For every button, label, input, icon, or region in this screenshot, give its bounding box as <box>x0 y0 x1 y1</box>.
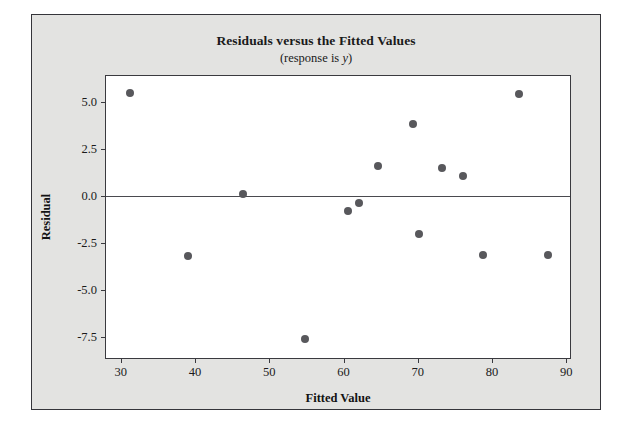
y-tick-label: 5.0 <box>81 95 97 110</box>
chart-title: Residuals versus the Fitted Values <box>32 33 600 49</box>
y-tick-mark <box>101 243 106 244</box>
chart-subtitle-prefix: (response is <box>280 51 343 65</box>
y-axis-title: Residual <box>39 194 54 241</box>
data-point <box>409 120 417 128</box>
x-tick-mark <box>195 358 196 363</box>
x-tick-label: 50 <box>263 365 276 380</box>
data-point <box>239 190 247 198</box>
x-tick-label: 30 <box>115 365 128 380</box>
plot-area: 30405060708090 5.02.50.0-2.5-5.0-7.5 <box>105 75 571 359</box>
data-point <box>301 335 309 343</box>
y-tick-label: -7.5 <box>77 330 97 345</box>
y-tick-mark <box>101 337 106 338</box>
x-tick-mark <box>121 358 122 363</box>
data-point <box>459 172 467 180</box>
data-point <box>515 90 523 98</box>
data-point <box>544 251 552 259</box>
x-axis-title: Fitted Value <box>105 391 571 406</box>
x-tick-mark <box>566 358 567 363</box>
x-tick-label: 90 <box>560 365 573 380</box>
x-tick-label: 40 <box>189 365 202 380</box>
chart-subtitle-suffix: ) <box>348 51 352 65</box>
y-tick-mark <box>101 290 106 291</box>
y-tick-mark <box>101 196 106 197</box>
y-tick-mark <box>101 149 106 150</box>
data-point <box>479 251 487 259</box>
data-point <box>355 199 363 207</box>
x-tick-mark <box>269 358 270 363</box>
data-point <box>438 164 446 172</box>
data-point <box>184 252 192 260</box>
zero-reference-line <box>106 196 570 197</box>
data-point <box>126 89 134 97</box>
chart-subtitle: (response is y) <box>32 51 600 66</box>
x-tick-label: 70 <box>412 365 425 380</box>
x-tick-mark <box>492 358 493 363</box>
x-tick-label: 80 <box>486 365 499 380</box>
y-tick-label: -2.5 <box>77 236 97 251</box>
figure-panel: Residuals versus the Fitted Values (resp… <box>31 14 601 410</box>
data-point <box>415 230 423 238</box>
title-block: Residuals versus the Fitted Values (resp… <box>32 33 600 66</box>
data-point <box>344 207 352 215</box>
x-tick-mark <box>344 358 345 363</box>
x-tick-mark <box>418 358 419 363</box>
y-tick-label: -5.0 <box>77 283 97 298</box>
data-point <box>374 162 382 170</box>
y-tick-mark <box>101 102 106 103</box>
y-tick-label: 2.5 <box>81 142 97 157</box>
x-tick-label: 60 <box>337 365 350 380</box>
y-tick-label: 0.0 <box>81 189 97 204</box>
